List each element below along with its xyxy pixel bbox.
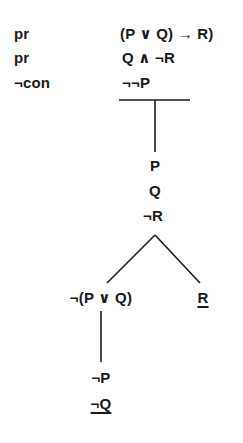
negated-conclusion-formula: ¬¬P: [122, 74, 150, 92]
trunk-node-not-r: ¬R: [143, 207, 163, 225]
premise-label-1: pr: [14, 25, 29, 43]
left-branch-head: ¬(P ∨ Q): [70, 289, 132, 307]
trunk-node-p: P: [150, 157, 160, 175]
trunk-node-q: Q: [149, 182, 161, 200]
negated-conclusion-label: ¬con: [14, 74, 50, 92]
left-branch-line: [107, 235, 155, 283]
left-branch-node-not-p: ¬P: [91, 369, 110, 387]
premise-formula-2: Q ∧ ¬R: [122, 49, 175, 67]
right-branch-line: [155, 235, 200, 283]
premise-label-2: pr: [14, 49, 29, 67]
right-branch-head-closed: R: [197, 289, 208, 307]
left-branch-node-not-q-closed: ¬Q: [91, 395, 112, 413]
premise-formula-1: (P ∨ Q) → R): [120, 25, 213, 43]
